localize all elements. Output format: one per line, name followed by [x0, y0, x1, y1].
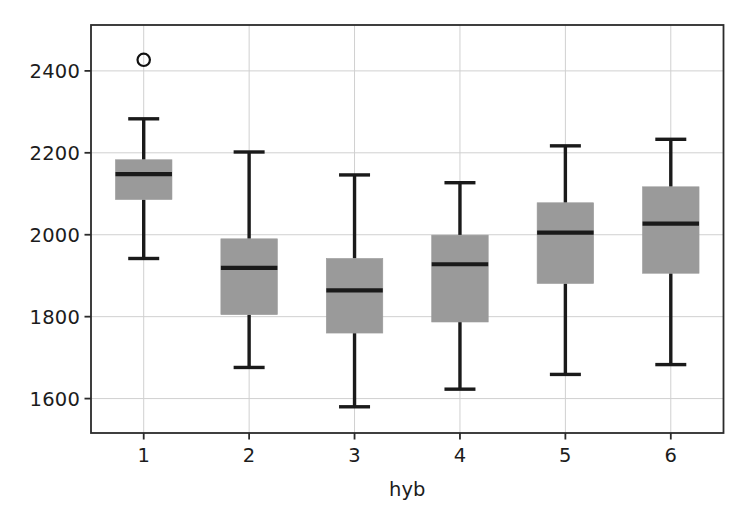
box-group[interactable] — [432, 183, 489, 389]
x-tick-label: 1 — [137, 444, 150, 467]
y-tick-label: 2400 — [5, 59, 80, 82]
box-rect[interactable] — [537, 203, 594, 284]
box-group[interactable] — [537, 146, 594, 375]
box-rect[interactable] — [221, 239, 278, 315]
x-tick-label: 4 — [454, 444, 467, 467]
box-group[interactable] — [326, 175, 383, 407]
box-series — [115, 54, 699, 407]
x-tick-label: 5 — [559, 444, 572, 467]
box-rect[interactable] — [326, 258, 383, 333]
box-group[interactable] — [221, 152, 278, 367]
plot-canvas — [0, 0, 748, 515]
box-rect[interactable] — [432, 235, 489, 322]
box-rect[interactable] — [643, 187, 700, 273]
y-tick-label: 2200 — [5, 141, 80, 164]
y-tick-label: 1800 — [5, 305, 80, 328]
boxplot-figure: hyb 16001800200022002400123456 — [0, 0, 748, 515]
plot-frame — [91, 25, 724, 433]
box-rect[interactable] — [115, 160, 172, 200]
x-tick-label: 3 — [348, 444, 361, 467]
grid-lines — [91, 25, 724, 433]
x-axis-title: hyb — [389, 478, 425, 501]
x-tick-label: 2 — [243, 444, 256, 467]
y-tick-label: 1600 — [5, 387, 80, 410]
box-group[interactable] — [643, 139, 700, 364]
x-tick-label: 6 — [664, 444, 677, 467]
y-tick-label: 2000 — [5, 223, 80, 246]
